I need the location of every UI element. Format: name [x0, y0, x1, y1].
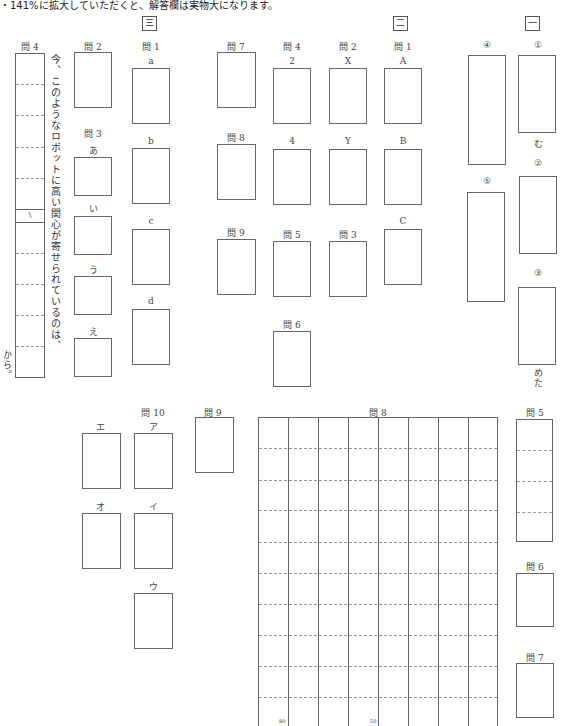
s2-q4-2-box[interactable] — [273, 68, 311, 124]
s3-q1-label-b: b — [148, 136, 154, 146]
s2-q7-answer-box[interactable] — [217, 52, 256, 108]
s3-q3-u-box[interactable] — [74, 276, 112, 315]
s1-1-answer-box[interactable] — [518, 55, 556, 133]
s1-label-4: ④ — [483, 40, 491, 50]
s2-q4-4-box[interactable] — [273, 149, 311, 205]
s1-label-5: ⑤ — [483, 176, 491, 186]
s3-q3-e-box[interactable] — [74, 338, 112, 377]
s3-q3-label-i: い — [89, 202, 98, 215]
s2-q1-label: 問 1 — [394, 40, 412, 53]
s2-q3-answer-box[interactable] — [329, 241, 367, 297]
header-note: ・141%に拡大していただくと、解答欄は実物大になります。 — [0, 0, 278, 12]
s2-q4-label: 問 4 — [283, 40, 301, 53]
s3-q1-d-box[interactable] — [132, 309, 170, 365]
s3-q3-label-a: あ — [89, 144, 98, 157]
s3-q1-b-box[interactable] — [132, 148, 170, 204]
section-3-marker: 三 — [142, 16, 157, 31]
q8-mark-80: 80 — [279, 718, 285, 724]
s2-q1-label-b: B — [400, 136, 407, 146]
s2-q1-a-box[interactable] — [384, 68, 422, 124]
s1-5-answer-box[interactable] — [467, 192, 505, 302]
q4-prompt: 今、このようなロボットに高い関心が寄せられているのは、 — [47, 54, 62, 354]
section-1-marker: 一 — [525, 16, 540, 31]
s1-2-answer-box[interactable] — [519, 176, 557, 254]
s2-q8-label: 問 8 — [227, 131, 245, 144]
s3-q10-e-box[interactable] — [82, 433, 121, 489]
s3-q1-label-a: a — [148, 56, 153, 66]
s3-q9-answer-box[interactable] — [195, 417, 234, 473]
s1-label-1: ① — [534, 40, 542, 50]
q4-label: 問 4 — [21, 40, 39, 53]
s3-q10-a-box[interactable] — [134, 433, 173, 489]
s2-q9-label: 問 9 — [227, 226, 245, 239]
s2-q6-answer-box[interactable] — [273, 331, 311, 387]
s3-q5-label: 問 5 — [526, 406, 544, 419]
s3-q3-i-box[interactable] — [74, 216, 112, 255]
s3-q3-a-box[interactable] — [74, 157, 112, 196]
s3-q1-a-box[interactable] — [132, 68, 170, 124]
s2-q4-label-4: 4 — [289, 136, 295, 146]
s3-q10-label-a: ア — [149, 420, 158, 433]
s3-q2-answer-box[interactable] — [74, 52, 112, 108]
q4-answer-box[interactable]: \ — [15, 53, 45, 378]
s2-q3-label: 問 3 — [339, 228, 357, 241]
s2-q2-y-box[interactable] — [329, 149, 367, 205]
s1-suffix-3: めた — [534, 368, 544, 388]
s2-q2-label: 問 2 — [339, 40, 357, 53]
s2-q8-answer-box[interactable] — [217, 144, 256, 200]
s1-suffix-1: む — [534, 137, 543, 150]
s2-q5-answer-box[interactable] — [273, 241, 311, 297]
q4-suffix: から。 — [1, 350, 14, 380]
s3-q10-label: 問 10 — [141, 406, 164, 419]
s3-q10-label-i: イ — [149, 500, 158, 513]
s3-q3-label: 問 3 — [84, 127, 102, 140]
s3-q10-label-u: ウ — [149, 580, 158, 593]
s3-q1-label: 問 1 — [142, 40, 160, 53]
s3-q10-o-box[interactable] — [82, 513, 121, 569]
s2-q2-label-x: X — [345, 56, 351, 66]
s2-q5-label: 問 5 — [283, 228, 301, 241]
s3-q6-label: 問 6 — [526, 560, 544, 573]
s1-label-2: ② — [534, 158, 542, 168]
s2-q6-label: 問 6 — [283, 318, 301, 331]
s1-4-answer-box[interactable] — [468, 55, 506, 165]
s2-q2-label-y: Y — [345, 136, 351, 146]
s3-q6-answer-box[interactable] — [516, 573, 554, 627]
s2-q2-x-box[interactable] — [329, 68, 367, 124]
s3-q5-answer-box[interactable] — [516, 419, 553, 542]
q8-mark-50: 50 — [370, 718, 376, 724]
s2-q1-c-box[interactable] — [384, 229, 422, 285]
s2-q1-b-box[interactable] — [384, 149, 422, 205]
s2-q1-label-c: C — [400, 216, 407, 226]
s1-3-answer-box[interactable] — [518, 287, 556, 365]
s3-q7-answer-box[interactable] — [516, 663, 554, 718]
s3-q10-label-o: オ — [96, 500, 105, 513]
s3-q10-label-e: エ — [96, 420, 105, 433]
s3-q8-grid[interactable]: 80 50 — [258, 417, 498, 726]
s3-q1-label-c: c — [148, 216, 153, 226]
section-2-marker: 二 — [393, 16, 408, 31]
s3-q1-c-box[interactable] — [132, 229, 170, 285]
s2-q9-answer-box[interactable] — [217, 239, 256, 295]
q4-mark: \ — [16, 210, 44, 219]
s1-label-3: ③ — [534, 268, 542, 278]
s2-q1-label-a: A — [400, 56, 407, 66]
s3-q3-label-e: え — [89, 325, 98, 338]
s3-q10-u-box[interactable] — [134, 593, 173, 649]
s3-q3-label-u: う — [89, 263, 98, 276]
s2-q4-label-2: 2 — [289, 56, 295, 66]
s3-q1-label-d: d — [148, 296, 154, 306]
s3-q10-i-box[interactable] — [134, 513, 173, 569]
